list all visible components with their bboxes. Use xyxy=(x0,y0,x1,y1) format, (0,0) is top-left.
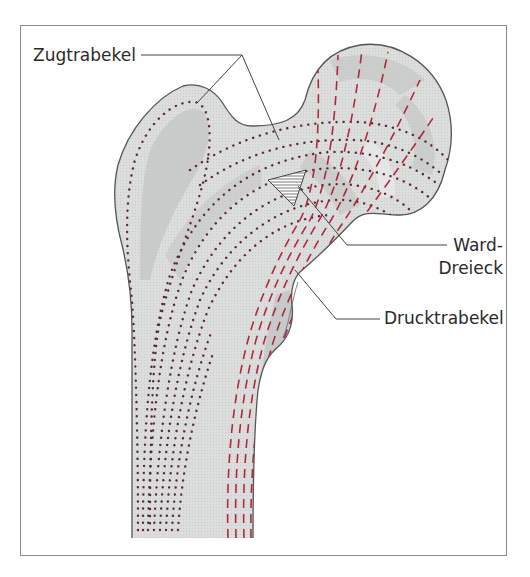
label-ward-line1: Ward- xyxy=(453,235,503,255)
label-zugtrabekel: Zugtrabekel xyxy=(33,45,136,65)
label-ward-line2: Dreieck xyxy=(438,258,503,278)
femur-bone xyxy=(115,44,452,538)
femur-trabecula-diagram: Zugtrabekel Ward- Dreieck Drucktrabekel xyxy=(0,0,530,577)
label-drucktrabekel: Drucktrabekel xyxy=(384,308,504,328)
drucktrabekel-leader xyxy=(295,270,380,319)
